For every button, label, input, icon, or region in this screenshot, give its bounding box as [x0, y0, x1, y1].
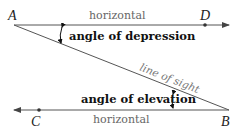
- angle-elevation-label: angle of elevation: [81, 92, 197, 106]
- depression-angle-arrow: [60, 27, 62, 43]
- point-a-label: A: [7, 8, 17, 23]
- bottom-horizontal-label: horizontal: [93, 113, 150, 126]
- point-b-label: B: [221, 114, 230, 129]
- point-c-dot: [37, 108, 41, 112]
- point-c-label: C: [31, 114, 41, 129]
- angle-depression-label: angle of depression: [69, 29, 196, 43]
- point-d-dot: [203, 23, 207, 27]
- top-horizontal-label: horizontal: [89, 9, 146, 22]
- diagram-canvas: A D C B horizontal horizontal angle of d…: [0, 0, 237, 134]
- point-d-label: D: [199, 8, 210, 23]
